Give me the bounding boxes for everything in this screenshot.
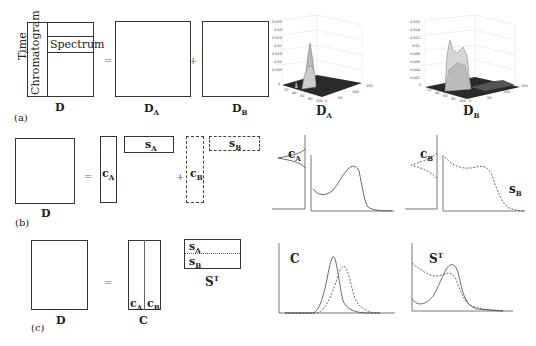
svg-text:20: 20 [427,88,431,92]
matrix-d-b-label: D [41,208,51,219]
svg-text:0.016: 0.016 [410,20,420,24]
matrix-c-ca-label: cA [130,298,142,311]
surface-db-title: DB [463,105,479,119]
matrix-st-label: ST [205,275,219,288]
matrix-da-label: DA [144,103,159,116]
matrix-st-sa-label: sA [189,241,201,254]
svg-text:0.014: 0.014 [410,28,421,32]
svg-text:0.01: 0.01 [412,44,420,48]
svg-text:0.005: 0.005 [272,68,282,72]
svg-text:0.004: 0.004 [410,68,421,72]
matrix-c-divider [144,240,145,310]
vector-sa-label: sA [145,139,157,152]
svg-text:100: 100 [459,99,466,103]
svg-text:60: 60 [443,94,447,98]
chromatogram-label: Chromatogram [29,10,42,95]
svg-text:100: 100 [352,90,359,94]
matrix-db-label: DB [232,103,247,116]
concentration-plot-label: C [290,253,300,265]
svg-text:0.012: 0.012 [410,36,420,40]
svg-text:0.01: 0.01 [274,60,282,64]
matrix-d-c [31,240,88,310]
plus-sign: + [189,56,197,66]
svg-text:0.035: 0.035 [272,20,282,24]
matrix-c-label: C [139,315,148,326]
vector-sb-label: sB [229,138,241,151]
svg-text:150: 150 [366,84,373,88]
svg-text:50: 50 [487,96,491,100]
svg-text:60: 60 [300,94,304,98]
svg-text:0: 0 [469,99,471,103]
equals-sign: = [104,56,112,66]
spectrum-label: Spectrum [50,39,104,50]
matrix-c-cb-label: cB [147,298,160,311]
svg-text:0.025: 0.025 [272,36,282,40]
svg-text:0.008: 0.008 [410,52,420,56]
svg-text:0.006: 0.006 [410,60,420,64]
svg-text:0: 0 [419,83,421,87]
plus-sign-b: + [176,172,184,182]
matrix-d-label: D [55,102,65,113]
svg-text:0: 0 [278,82,280,86]
vector-ca-label: cA [102,168,114,181]
panel-a-tag: (a) [14,113,28,123]
profile-plot-b-label-c: cB [420,148,433,162]
matrix-da [115,21,191,97]
profile-plot-b-label-s: sB [509,183,522,197]
svg-text:80: 80 [451,97,455,101]
equals-sign-c: = [104,278,112,288]
surface-plot-db: 0.0160.0140.012 0.010.0080.006 0.0040.00… [405,15,536,105]
svg-text:80: 80 [308,97,312,101]
svg-text:0.015: 0.015 [272,52,282,56]
profile-plot-a-label: cA [288,148,301,162]
matrix-db [202,21,269,97]
svg-text:150: 150 [521,84,528,88]
svg-text:0.03: 0.03 [274,28,282,32]
svg-text:100: 100 [316,99,323,103]
svg-text:0.002: 0.002 [410,76,420,80]
panel-c-tag: (c) [31,323,44,333]
matrix-d-c-label: D [56,315,66,326]
spectral-plot-label: ST [429,252,443,265]
svg-text:40: 40 [292,91,296,95]
svg-text:40: 40 [435,91,439,95]
vector-cb-label: cB [190,168,203,181]
surface-da-title: DA [316,105,332,119]
surface-plot-da: 0.0350.030.025 0.020.0150.01 0.0050 2040… [272,15,392,105]
svg-text:100: 100 [503,90,510,94]
matrix-st-sb-label: sB [189,256,201,269]
panel-b-tag: (b) [15,218,29,228]
svg-text:0: 0 [325,99,327,103]
matrix-d-b [15,138,75,204]
svg-text:50: 50 [338,96,342,100]
equals-sign-b: = [84,172,92,182]
svg-text:20: 20 [284,88,288,92]
spectral-profile-plot [408,243,533,318]
svg-text:0.02: 0.02 [274,44,282,48]
